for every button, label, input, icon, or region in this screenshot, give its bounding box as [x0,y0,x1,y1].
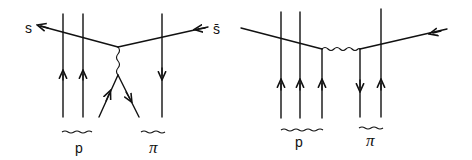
s-bar-quark-line [118,27,208,47]
proton-label: p [295,134,303,150]
arrow-down-icon [126,92,130,99]
pion-brace [359,127,383,129]
gluon-line [117,47,120,75]
gluon-line [322,48,360,51]
proton-brace [281,129,323,131]
right-diagram: p π [241,9,447,150]
arrow-left-icon [41,26,48,28]
feynman-diagrams: s s̄ p π p π [0,0,472,160]
outgoing-antiquark-line [360,29,447,49]
proton-label: p [75,140,83,156]
s-quark-label: s [25,20,32,36]
proton-brace [62,131,92,133]
pion-label: π [149,138,158,157]
left-diagram: s s̄ p π [25,14,220,157]
arrow-left-icon [198,28,205,29]
pion-label: π [366,131,375,150]
s-quark-line [40,26,118,47]
s-bar-quark-label: s̄ [213,21,220,37]
pion-brace [141,131,165,133]
